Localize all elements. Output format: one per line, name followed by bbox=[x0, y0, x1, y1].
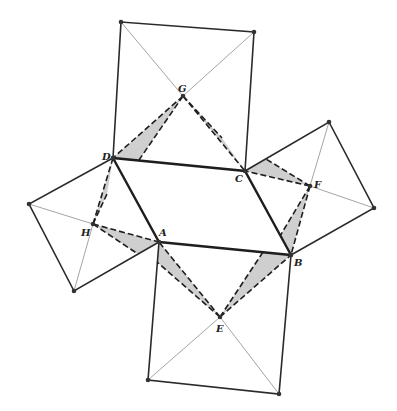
label-E: E bbox=[215, 323, 224, 334]
label-C: C bbox=[235, 173, 243, 184]
shaded-triangles bbox=[93, 96, 310, 317]
label-H: H bbox=[80, 227, 91, 238]
square-diagonals bbox=[29, 22, 374, 394]
geometry-figure: A B C D E F G H bbox=[0, 0, 397, 411]
label-A: A bbox=[158, 227, 167, 238]
dashed-lines bbox=[93, 96, 310, 317]
label-D: D bbox=[101, 151, 111, 162]
vertex-points bbox=[27, 20, 377, 397]
squares bbox=[29, 22, 374, 394]
label-F: F bbox=[313, 179, 322, 190]
label-G: G bbox=[178, 83, 187, 94]
label-B: B bbox=[293, 257, 302, 268]
